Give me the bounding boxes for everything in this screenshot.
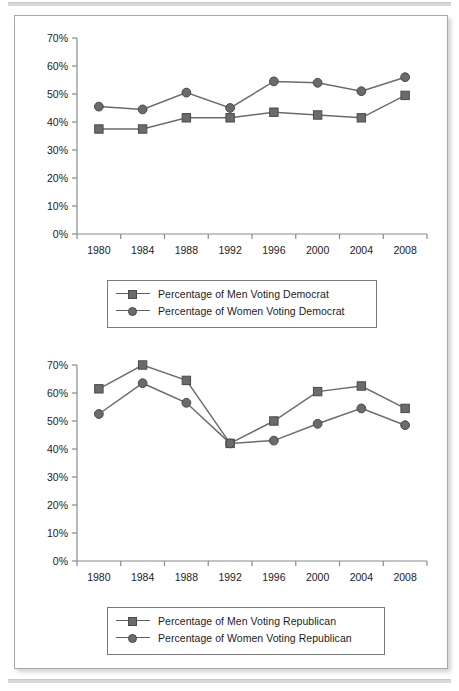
data-point-marker-circle (94, 102, 103, 111)
legend-label-men-republican: Percentage of Men Voting Republican (158, 615, 336, 627)
data-point-marker-circle (401, 73, 410, 82)
data-point-marker-square (357, 382, 365, 390)
x-axis-tick-label: 1992 (218, 571, 242, 583)
bottom-divider-rule (8, 679, 451, 683)
y-axis-tick-label: 70% (47, 359, 68, 371)
y-axis-tick-label: 10% (47, 527, 68, 539)
x-axis-tick-label: 1984 (131, 571, 155, 583)
y-axis-tick-label: 0% (53, 555, 68, 567)
legend-label-women-republican: Percentage of Women Voting Republican (158, 632, 352, 644)
data-point-marker-square (95, 385, 103, 393)
data-point-marker-square (270, 108, 278, 116)
legend-item-men-democrat: Percentage of Men Voting Democrat (116, 285, 368, 302)
data-point-marker-circle (269, 77, 278, 86)
legend-marker-square-icon (116, 288, 150, 300)
y-axis-tick-label: 40% (47, 116, 68, 128)
x-axis-tick-label: 2008 (393, 571, 417, 583)
data-point-marker-circle (226, 104, 235, 113)
data-point-marker-circle (313, 419, 322, 428)
y-axis-tick-label: 50% (47, 88, 68, 100)
x-axis-tick-label: 1984 (131, 244, 155, 256)
legend-marker-circle-icon (116, 305, 150, 317)
data-point-marker-circle (182, 88, 191, 97)
data-point-marker-circle (313, 78, 322, 87)
data-point-marker-circle (182, 398, 191, 407)
page-background: 0%10%20%30%40%50%60%70%19801984198819921… (0, 0, 459, 691)
legend-label-men-democrat: Percentage of Men Voting Democrat (158, 288, 329, 300)
data-point-marker-circle (357, 87, 366, 96)
legend-republican: Percentage of Men Voting Republican Perc… (107, 607, 385, 655)
x-axis-tick-label: 1988 (175, 571, 199, 583)
legend-item-women-republican: Percentage of Women Voting Republican (116, 629, 376, 646)
y-axis-tick-label: 50% (47, 415, 68, 427)
y-axis-tick-label: 0% (53, 228, 68, 240)
x-axis-tick-label: 1980 (87, 571, 111, 583)
y-axis-tick-label: 10% (47, 200, 68, 212)
legend-item-women-democrat: Percentage of Women Voting Democrat (116, 302, 368, 319)
x-axis-tick-label: 2004 (350, 571, 374, 583)
data-point-marker-circle (226, 439, 235, 448)
chart-democrat-plot: 0%10%20%30%40%50%60%70%19801984198819921… (15, 16, 449, 276)
data-point-marker-square (138, 361, 146, 369)
data-point-marker-circle (269, 436, 278, 445)
data-point-marker-circle (138, 379, 147, 388)
y-axis-tick-label: 70% (47, 32, 68, 44)
chart-democrat: 0%10%20%30%40%50%60%70%19801984198819921… (15, 16, 449, 343)
y-axis-tick-label: 30% (47, 471, 68, 483)
data-point-marker-circle (357, 404, 366, 413)
y-axis-tick-label: 20% (47, 172, 68, 184)
top-divider-rule (8, 2, 451, 6)
x-axis-tick-label: 2004 (350, 244, 374, 256)
x-axis-tick-label: 2000 (306, 244, 330, 256)
x-axis-tick-label: 1988 (175, 244, 199, 256)
y-axis-tick-label: 60% (47, 60, 68, 72)
y-axis-tick-label: 60% (47, 387, 68, 399)
x-axis-tick-label: 1996 (262, 571, 286, 583)
data-point-marker-circle (138, 105, 147, 114)
x-axis-tick-label: 2000 (306, 571, 330, 583)
data-point-marker-square (182, 114, 190, 122)
x-axis-tick-label: 1980 (87, 244, 111, 256)
data-point-marker-square (270, 417, 278, 425)
chart-republican-plot: 0%10%20%30%40%50%60%70%19801984198819921… (15, 343, 449, 603)
x-axis-tick-label: 2008 (393, 244, 417, 256)
data-point-marker-square (138, 125, 146, 133)
legend-marker-square-icon (116, 615, 150, 627)
x-axis-tick-label: 1996 (262, 244, 286, 256)
x-axis-tick-label: 1992 (218, 244, 242, 256)
legend-item-men-republican: Percentage of Men Voting Republican (116, 612, 376, 629)
data-point-marker-square (401, 91, 409, 99)
y-axis-tick-label: 40% (47, 443, 68, 455)
y-axis-tick-label: 20% (47, 499, 68, 511)
data-point-marker-circle (401, 421, 410, 430)
legend-marker-circle-icon (116, 632, 150, 644)
legend-democrat: Percentage of Men Voting Democrat Percen… (107, 280, 377, 328)
data-point-marker-square (313, 387, 321, 395)
data-point-marker-square (95, 125, 103, 133)
data-point-marker-square (226, 114, 234, 122)
data-point-marker-circle (94, 410, 103, 419)
legend-label-women-democrat: Percentage of Women Voting Democrat (158, 305, 345, 317)
data-point-marker-square (401, 404, 409, 412)
chart-republican: 0%10%20%30%40%50%60%70%19801984198819921… (15, 343, 449, 670)
figure-card: 0%10%20%30%40%50%60%70%19801984198819921… (14, 15, 448, 669)
data-point-marker-square (313, 111, 321, 119)
series-line (99, 383, 405, 443)
y-axis-tick-label: 30% (47, 144, 68, 156)
data-point-marker-square (357, 114, 365, 122)
data-point-marker-square (182, 376, 190, 384)
